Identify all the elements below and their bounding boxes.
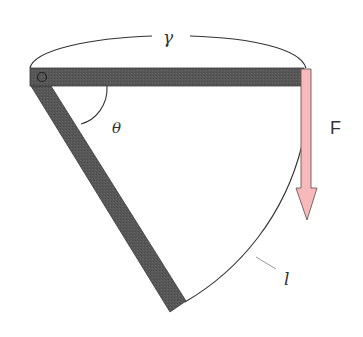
curve-l-label: l (284, 269, 289, 289)
theta-arc (81, 86, 107, 124)
gamma-label: γ (163, 27, 174, 47)
diagonal-bar (31, 86, 186, 312)
force-arrow (296, 69, 317, 220)
theta-label: θ (112, 119, 121, 137)
mechanism-diagram: γ θ l F (0, 0, 363, 337)
curve-l-leader (256, 257, 276, 269)
horizontal-bar (30, 68, 304, 86)
force-label: F (330, 118, 341, 138)
